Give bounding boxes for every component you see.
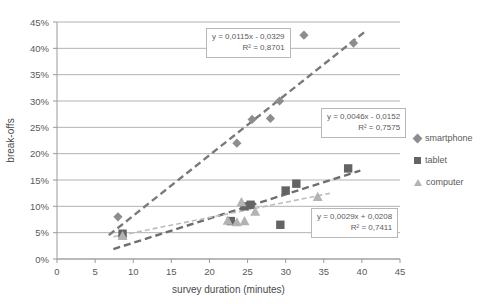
x-tick-label: 0	[54, 266, 59, 277]
data-point-computer	[240, 216, 250, 225]
y-tick-label: 15%	[30, 175, 50, 186]
data-point-smartphone	[266, 114, 275, 123]
triangle-marker-icon	[414, 179, 422, 186]
data-point-tablet	[276, 221, 284, 229]
y-tick-label: 5%	[35, 227, 49, 238]
trendline-equation-computer: y = 0,0029x + 0,0208 R² = 0,7411	[311, 208, 398, 238]
legend-label: tablet	[425, 155, 447, 165]
data-point-smartphone	[299, 31, 308, 40]
square-marker-icon	[414, 157, 421, 164]
y-axis-tick-labels: 0%5%10%15%20%25%30%35%40%45%	[30, 17, 50, 265]
data-point-smartphone	[349, 38, 358, 47]
scatter-chart: 0%5%10%15%20%25%30%35%40%45% 05101520253…	[0, 0, 494, 304]
y-tick-label: 10%	[30, 201, 50, 212]
data-point-tablet	[292, 179, 300, 187]
data-point-tablet	[246, 201, 254, 209]
data-point-tablet	[281, 186, 289, 194]
x-tick-label: 40	[357, 266, 368, 277]
trendline-equation-smartphone: y = 0,0115x - 0,0329 R² = 0,8701	[206, 28, 291, 58]
data-point-computer	[236, 197, 246, 206]
chart-legend: smartphone tablet computer	[414, 127, 473, 193]
y-tick-label: 25%	[30, 122, 50, 133]
data-point-smartphone	[232, 139, 241, 148]
r-squared-text: R² = 0,7575	[327, 123, 400, 134]
x-axis-title: survey duration (minutes)	[172, 284, 285, 295]
x-tick-label: 35	[318, 266, 329, 277]
data-point-smartphone	[113, 212, 122, 221]
equation-text: y = 0,0115x - 0,0329	[212, 32, 285, 43]
y-tick-label: 45%	[30, 17, 50, 28]
x-tick-label: 10	[128, 266, 139, 277]
x-tick-label: 25	[242, 266, 253, 277]
x-tick-label: 5	[92, 266, 97, 277]
legend-label: computer	[426, 177, 464, 187]
data-point-tablet	[344, 164, 352, 172]
legend-item-smartphone: smartphone	[414, 127, 473, 149]
y-tick-label: 30%	[30, 96, 50, 107]
diamond-marker-icon	[413, 133, 423, 143]
equation-text: y = 0,0046x - 0,0152	[327, 112, 400, 123]
r-squared-text: R² = 0,7411	[317, 223, 392, 234]
trendline-equation-tablet: y = 0,0046x - 0,0152 R² = 0,7575	[321, 108, 406, 138]
legend-label: smartphone	[425, 133, 473, 143]
legend-item-tablet: tablet	[414, 149, 473, 171]
y-tick-label: 20%	[30, 148, 50, 159]
y-tick-label: 0%	[35, 254, 49, 265]
x-tick-label: 30	[280, 266, 291, 277]
x-axis-tick-labels: 051015202530354045	[54, 266, 405, 277]
x-tick-label: 20	[204, 266, 215, 277]
equation-text: y = 0,0029x + 0,0208	[317, 212, 392, 223]
legend-item-computer: computer	[414, 171, 473, 193]
y-tick-label: 35%	[30, 69, 50, 80]
x-tick-label: 45	[395, 266, 406, 277]
y-tick-label: 40%	[30, 43, 50, 54]
y-axis-title: break-offs	[5, 118, 16, 162]
x-tick-label: 15	[166, 266, 177, 277]
r-squared-text: R² = 0,8701	[212, 43, 285, 54]
